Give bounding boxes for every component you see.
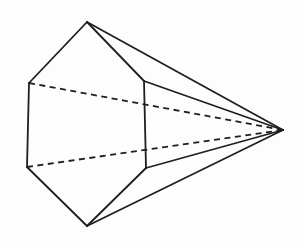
edge-lower_right-to-upper_right <box>144 81 146 168</box>
edge-upper_left-to-lower_left <box>27 83 29 167</box>
pyramid-diagram <box>0 0 305 248</box>
hexagonal-pyramid-figure <box>0 0 305 248</box>
edge-top-to-upper_left <box>29 22 87 83</box>
edge-top-to-apex <box>87 22 283 130</box>
edge-lower_right-to-apex <box>146 130 283 168</box>
edge-upper_left-to-apex <box>29 83 283 130</box>
edge-layer <box>27 22 283 226</box>
edge-upper_right-to-top <box>87 22 144 81</box>
edge-upper_right-to-apex <box>144 81 283 130</box>
edge-bottom-to-lower_right <box>87 168 146 226</box>
edge-lower_left-to-bottom <box>27 167 87 226</box>
